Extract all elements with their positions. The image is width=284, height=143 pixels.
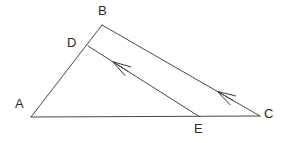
segment-BC — [102, 25, 260, 116]
segment-DE — [88, 46, 200, 117]
vertex-label-B: B — [98, 4, 107, 17]
arrowhead-BC-icon — [217, 91, 235, 104]
vertex-label-D: D — [67, 36, 76, 49]
segment-AC — [31, 116, 260, 117]
geometry-figure-canvas — [0, 0, 284, 143]
vertex-label-A: A — [15, 97, 24, 110]
vertex-label-C: C — [264, 107, 273, 120]
vertex-label-E: E — [194, 122, 203, 135]
arrowhead-DE-icon — [113, 62, 131, 76]
geometry-figure: A B C D E — [0, 0, 284, 143]
